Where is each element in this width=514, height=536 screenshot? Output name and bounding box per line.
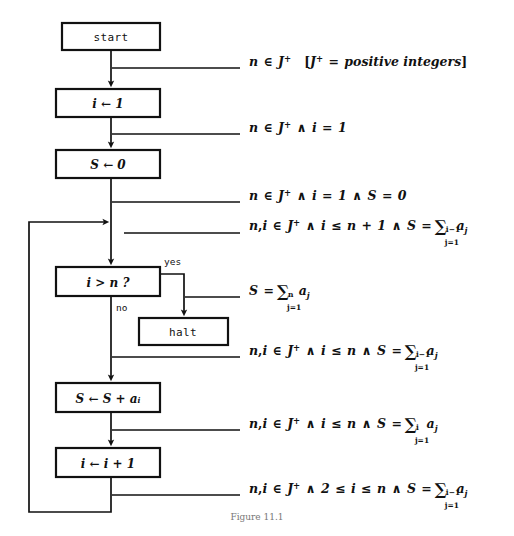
node-init-i[interactable]: i ← 1: [56, 89, 160, 117]
node-increment-label: i ← i + 1: [81, 457, 135, 471]
node-halt-label: halt: [169, 326, 197, 339]
annotation-2: n ∈ J+ ∧ i = 1: [249, 121, 347, 135]
annotation-6: n,i ∈ J+ ∧ i ≤ n ∧ S =∑i−1j=1 aj: [249, 344, 438, 360]
node-accum-label: S ← S + aᵢ: [76, 392, 141, 406]
annotation-8: n,i ∈ J+ ∧ 2 ≤ i ≤ n ∧ S =∑i−1j=1 aj: [249, 482, 468, 498]
branch-label-no: no: [116, 302, 128, 313]
node-init-s[interactable]: S ← 0: [56, 150, 160, 178]
edge-test-yes-to-halt: [160, 274, 184, 313]
node-start-label: start: [93, 31, 128, 44]
branch-label-yes: yes: [164, 256, 181, 267]
node-accum[interactable]: S ← S + aᵢ: [56, 383, 160, 412]
flowchart-canvas: start i ← 1 S ← 0 i > n ? halt S ← S + a…: [0, 0, 514, 536]
figure-caption: Figure 11.1: [0, 512, 514, 536]
node-test-label: i > n ?: [87, 276, 131, 290]
annotation-7: n,i ∈ J+ ∧ i ≤ n ∧ S =∑ij=1 aj: [249, 417, 438, 433]
annotation-4: n,i ∈ J+ ∧ i ≤ n + 1 ∧ S =∑i−1j=1 aj: [249, 219, 468, 235]
flowchart-figure: start i ← 1 S ← 0 i > n ? halt S ← S + a…: [0, 0, 514, 536]
annotation-3: n ∈ J+ ∧ i = 1 ∧ S = 0: [249, 189, 406, 203]
node-test[interactable]: i > n ?: [56, 267, 160, 296]
annotation-5: S =∑nj=1 aj: [249, 284, 310, 300]
annotation-1: n ∈ J+ [J+ = positive integers]: [249, 55, 467, 69]
node-init-s-label: S ← 0: [90, 158, 126, 172]
node-init-i-label: i ← 1: [92, 97, 123, 111]
node-start[interactable]: start: [62, 23, 160, 50]
node-increment[interactable]: i ← i + 1: [56, 448, 160, 477]
node-halt[interactable]: halt: [139, 318, 228, 345]
